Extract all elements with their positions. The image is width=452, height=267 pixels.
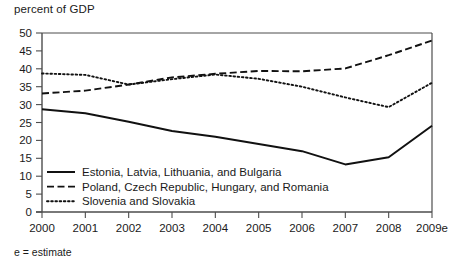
x-axis-tick-label: 2003 bbox=[159, 222, 185, 234]
chart-figure: percent of GDP 05101520253035404550 2000… bbox=[0, 0, 452, 267]
y-axis-tick-label: 20 bbox=[19, 134, 32, 146]
legend-label-1: Estonia, Latvia, Lithuania, and Bulgaria bbox=[82, 166, 282, 178]
x-axis-tick-label: 2006 bbox=[289, 222, 315, 234]
y-axis-tick-label: 15 bbox=[19, 152, 32, 164]
x-axis-tick-label: 2001 bbox=[73, 222, 99, 234]
x-axis-tick-group: 2000200120022003200420052006200720082009… bbox=[29, 212, 448, 234]
legend-label-3: Slovenia and Slovakia bbox=[82, 195, 196, 207]
chart-footnote: e = estimate bbox=[14, 246, 72, 258]
x-axis-tick-label: 2008 bbox=[376, 222, 402, 234]
x-axis-tick-label: 2005 bbox=[246, 222, 272, 234]
x-axis-tick-label: 2009e bbox=[416, 222, 448, 234]
y-axis-tick-group: 05101520253035404550 bbox=[19, 27, 42, 218]
x-axis-tick-label: 2002 bbox=[116, 222, 142, 234]
series-line-1 bbox=[42, 109, 432, 164]
series-line-2 bbox=[42, 41, 432, 94]
x-axis-tick-label: 2000 bbox=[29, 222, 55, 234]
legend-label-2: Poland, Czech Republic, Hungary, and Rom… bbox=[82, 181, 329, 193]
legend-group: Estonia, Latvia, Lithuania, and Bulgaria… bbox=[47, 166, 329, 207]
y-axis-tick-label: 40 bbox=[19, 63, 32, 75]
x-axis-tick-label: 2007 bbox=[333, 222, 359, 234]
y-axis-tick-label: 10 bbox=[19, 170, 32, 182]
y-axis-tick-label: 25 bbox=[19, 117, 32, 129]
line-chart-plot: 05101520253035404550 2000200120022003200… bbox=[0, 0, 452, 240]
y-axis-tick-label: 50 bbox=[19, 27, 32, 39]
series-line-3 bbox=[42, 73, 432, 107]
y-axis-tick-label: 30 bbox=[19, 99, 32, 111]
y-axis-tick-label: 45 bbox=[19, 45, 32, 57]
y-axis-tick-label: 35 bbox=[19, 81, 32, 93]
y-axis-title: percent of GDP bbox=[14, 3, 95, 15]
x-axis-tick-label: 2004 bbox=[203, 222, 229, 234]
y-axis-tick-label: 0 bbox=[26, 206, 32, 218]
y-axis-tick-label: 5 bbox=[26, 188, 32, 200]
series-group bbox=[42, 41, 432, 165]
